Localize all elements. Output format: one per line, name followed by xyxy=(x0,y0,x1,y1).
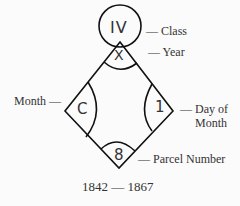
month-symbol: C xyxy=(77,103,87,115)
class-label: — Class xyxy=(146,25,187,37)
year-label: — Year xyxy=(148,46,185,58)
day-label-line1: — Day of xyxy=(180,103,228,115)
day-arc xyxy=(145,84,153,131)
year-symbol: X xyxy=(114,49,124,61)
class-symbol: IV xyxy=(110,22,128,34)
month-label: Month — xyxy=(14,95,61,107)
day-label-line2: Month xyxy=(195,117,227,129)
month-arc xyxy=(86,82,97,137)
parcel-symbol: 8 xyxy=(114,149,124,161)
parcel-label: — Parcel Number xyxy=(138,153,225,165)
date-range-caption: 1842 — 1867 xyxy=(82,181,154,193)
year-arc xyxy=(104,62,137,69)
day-symbol: 1 xyxy=(155,101,165,113)
